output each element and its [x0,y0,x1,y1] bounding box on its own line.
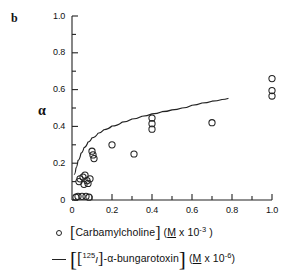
x-tick-label: 0.6 [179,206,205,215]
x-tick-label: 0.8 [219,206,245,215]
legend-toxin-name: -α-bungarotoxin [104,252,179,264]
x-tick-label: 1.0 [259,206,285,215]
x-tick-label: 0 [59,206,85,215]
legend-isotope-mass: 125 [83,251,96,260]
legend-unit-times: x 10 [176,226,199,238]
carbamylcholine-data-points [73,75,275,200]
solid-line-icon [52,259,66,260]
data-point-marker [209,120,215,126]
y-tick-label: 0.8 [39,48,65,57]
legend-unit-times-2: x 10 [201,252,224,264]
legend-unit-exponent-2: -6 [225,251,232,260]
axis-ticks [72,16,272,200]
legend-compound-name: Carbamylcholine [75,226,155,238]
legend-unit-close: ) [206,226,213,238]
legend-label-carbamylcholine: [Carbamylcholine] (M x 10-3 ) [70,223,213,242]
axis-lines [72,16,272,200]
data-point-marker [91,156,97,162]
x-tick-label: 0.2 [99,206,125,215]
legend-key-line [48,249,70,269]
legend-row-bungarotoxin: [[125I]-α-bungarotoxin] (M x 10-6) [48,249,294,275]
legend-row-carbamylcholine: [Carbamylcholine] (M x 10-3 ) [48,223,294,249]
bungarotoxin-fit-curve [74,98,228,174]
data-point-marker [131,151,137,157]
data-point-marker [269,75,275,81]
legend-key-circle [48,223,70,243]
y-tick-label: 0.6 [39,85,65,94]
y-tick-label: 1.0 [39,12,65,21]
open-circle-icon [56,230,62,236]
legend-label-bungarotoxin: [[125I]-α-bungarotoxin] (M x 10-6) [70,249,235,269]
data-point-marker [109,142,115,148]
legend-unit-molar: M [167,226,176,238]
legend-unit-close-2: ) [232,252,236,264]
y-tick-label: 0.2 [39,159,65,168]
y-tick-label: 0.4 [39,122,65,131]
x-tick-label: 0.4 [139,206,165,215]
y-tick-label: 0 [39,196,65,205]
fitted-curve-layer [74,98,228,174]
figure-panel-b: b α 00.20.40.60.81.000.20.40.60.81.0 [Ca… [0,0,294,279]
legend: [Carbamylcholine] (M x 10-3 ) [[125I]-α-… [48,223,294,275]
